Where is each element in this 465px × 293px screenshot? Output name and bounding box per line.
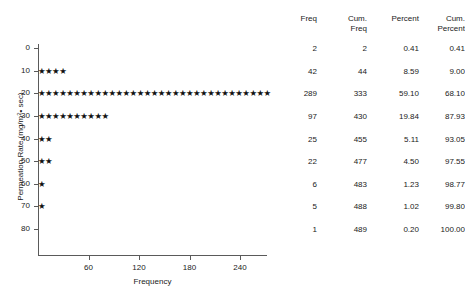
star-marker: ★ bbox=[59, 111, 66, 121]
star-marker: ★ bbox=[45, 66, 52, 76]
table-cell-cum-freq: 477 bbox=[321, 157, 367, 166]
table-cell-percent: 19.84 bbox=[373, 112, 419, 121]
x-axis-line bbox=[38, 255, 267, 256]
table-cell-percent: 1.23 bbox=[373, 180, 419, 189]
star-marker: ★ bbox=[264, 88, 271, 98]
table-cell-freq: 42 bbox=[275, 67, 317, 76]
frequency-distribution-figure: 01020304050607080 60120180240 ★★★★★★★★★★… bbox=[0, 0, 465, 293]
star-marker: ★ bbox=[38, 111, 45, 121]
star-marker: ★ bbox=[73, 111, 80, 121]
star-row: ★★ bbox=[38, 134, 52, 144]
y-axis-title: Permeation Rate (mg/m2• sec) bbox=[16, 41, 25, 253]
table-cell-cum-percent: 98.77 bbox=[421, 180, 465, 189]
table-cell-freq: 5 bbox=[275, 202, 317, 211]
x-axis-tick-label: 120 bbox=[119, 263, 159, 272]
y-axis-tick-mark bbox=[34, 229, 38, 230]
table-header-line: Cum. bbox=[421, 14, 465, 24]
table-cell-freq: 22 bbox=[275, 157, 317, 166]
star-marker: ★ bbox=[158, 88, 165, 98]
table-cell-cum-freq: 333 bbox=[321, 89, 367, 98]
x-axis-tick-label: 180 bbox=[170, 263, 210, 272]
y-axis-tick-mark bbox=[34, 48, 38, 49]
star-marker: ★ bbox=[73, 88, 80, 98]
table-cell-cum-freq: 44 bbox=[321, 67, 367, 76]
star-marker: ★ bbox=[101, 88, 108, 98]
star-marker: ★ bbox=[137, 88, 144, 98]
star-marker: ★ bbox=[45, 156, 52, 166]
plot-region: 01020304050607080 60120180240 ★★★★★★★★★★… bbox=[0, 0, 275, 293]
star-marker: ★ bbox=[193, 88, 200, 98]
x-axis-tick-mark bbox=[139, 255, 140, 260]
table-cell-cum-percent: 97.55 bbox=[421, 157, 465, 166]
star-marker: ★ bbox=[130, 88, 137, 98]
star-marker: ★ bbox=[123, 88, 130, 98]
star-marker: ★ bbox=[165, 88, 172, 98]
star-marker: ★ bbox=[59, 88, 66, 98]
table-cell-cum-percent: 87.93 bbox=[421, 112, 465, 121]
table-header-line: Percent bbox=[373, 14, 419, 24]
star-marker: ★ bbox=[87, 88, 94, 98]
x-axis-tick-mark bbox=[89, 255, 90, 260]
star-marker: ★ bbox=[144, 88, 151, 98]
star-marker: ★ bbox=[66, 111, 73, 121]
star-row: ★ bbox=[38, 179, 45, 189]
x-axis-tick-mark bbox=[240, 255, 241, 260]
table-cell-percent: 59.10 bbox=[373, 89, 419, 98]
star-marker: ★ bbox=[151, 88, 158, 98]
x-axis-title: Frequency bbox=[38, 277, 267, 286]
star-row: ★★★★★★★★★★★★★★★★★★★★★★★★★★★★★★★★★ bbox=[38, 88, 271, 98]
table-cell-cum-freq: 483 bbox=[321, 180, 367, 189]
table-header-line: Cum. bbox=[321, 14, 367, 24]
star-marker: ★ bbox=[221, 88, 228, 98]
table-cell-percent: 4.50 bbox=[373, 157, 419, 166]
star-marker: ★ bbox=[256, 88, 263, 98]
star-marker: ★ bbox=[94, 111, 101, 121]
star-marker: ★ bbox=[80, 88, 87, 98]
table-cell-cum-percent: 93.05 bbox=[421, 135, 465, 144]
table-cell-cum-percent: 100.00 bbox=[421, 225, 465, 234]
table-cell-freq: 2 bbox=[275, 44, 317, 53]
star-marker: ★ bbox=[242, 88, 249, 98]
star-marker: ★ bbox=[59, 66, 66, 76]
table-cell-cum-freq: 430 bbox=[321, 112, 367, 121]
star-marker: ★ bbox=[80, 111, 87, 121]
table-cell-freq: 25 bbox=[275, 135, 317, 144]
star-row: ★★ bbox=[38, 156, 52, 166]
star-marker: ★ bbox=[38, 66, 45, 76]
star-marker: ★ bbox=[38, 88, 45, 98]
statistics-table: FreqCum.FreqPercentCum.Percent 220.410.4… bbox=[275, 0, 465, 293]
star-row: ★★★★★★★★★★ bbox=[38, 111, 108, 121]
table-cell-freq: 6 bbox=[275, 180, 317, 189]
table-cell-cum-percent: 99.80 bbox=[421, 202, 465, 211]
star-marker: ★ bbox=[116, 88, 123, 98]
table-cell-cum-freq: 455 bbox=[321, 135, 367, 144]
star-marker: ★ bbox=[87, 111, 94, 121]
star-marker: ★ bbox=[52, 88, 59, 98]
star-marker: ★ bbox=[38, 156, 45, 166]
x-axis-tick-label: 60 bbox=[69, 263, 109, 272]
table-cell-freq: 289 bbox=[275, 89, 317, 98]
table-cell-percent: 8.59 bbox=[373, 67, 419, 76]
star-marker: ★ bbox=[214, 88, 221, 98]
table-header-freq: Freq bbox=[275, 14, 317, 24]
star-marker: ★ bbox=[172, 88, 179, 98]
star-marker: ★ bbox=[66, 88, 73, 98]
star-marker: ★ bbox=[235, 88, 242, 98]
table-cell-percent: 5.11 bbox=[373, 135, 419, 144]
star-marker: ★ bbox=[94, 88, 101, 98]
star-marker: ★ bbox=[108, 88, 115, 98]
star-row: ★★★★ bbox=[38, 66, 66, 76]
star-marker: ★ bbox=[38, 201, 45, 211]
star-marker: ★ bbox=[45, 111, 52, 121]
x-axis-tick-mark bbox=[190, 255, 191, 260]
table-cell-cum-freq: 488 bbox=[321, 202, 367, 211]
star-marker: ★ bbox=[200, 88, 207, 98]
table-cell-cum-freq: 489 bbox=[321, 225, 367, 234]
star-marker: ★ bbox=[52, 111, 59, 121]
table-header-percent: Percent bbox=[373, 14, 419, 24]
star-marker: ★ bbox=[249, 88, 256, 98]
table-cell-freq: 1 bbox=[275, 225, 317, 234]
table-cell-percent: 1.02 bbox=[373, 202, 419, 211]
table-cell-cum-percent: 0.41 bbox=[421, 44, 465, 53]
table-header-cum-freq: Cum.Freq bbox=[321, 14, 367, 34]
